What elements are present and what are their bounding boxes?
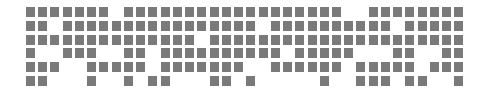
grid-cell [210, 48, 219, 58]
grid-cell [124, 21, 133, 31]
grid-cell [26, 35, 35, 45]
grid-cell [369, 35, 378, 45]
grid-cell [393, 7, 402, 17]
grid-cell [320, 35, 329, 45]
grid-cell [38, 76, 47, 86]
grid-cell [320, 62, 329, 72]
grid-cell [332, 48, 341, 58]
grid-cell [234, 35, 243, 45]
grid-cell [332, 35, 341, 45]
grid-cell [26, 76, 35, 86]
grid-cell [87, 48, 96, 58]
grid-cell [112, 62, 121, 72]
grid-cell [197, 48, 206, 58]
grid-cell [283, 62, 292, 72]
grid-cell [63, 35, 72, 45]
grid-cell [442, 48, 451, 58]
grid-cell [185, 48, 194, 58]
grid-cell [50, 35, 59, 45]
grid-cell [222, 76, 231, 86]
grid-cell [99, 7, 108, 17]
grid-cell [259, 35, 268, 45]
grid-cell [369, 7, 378, 17]
grid-cell [271, 62, 280, 72]
grid-cell [308, 7, 317, 17]
grid-cell [222, 35, 231, 45]
grid-cell [381, 7, 390, 17]
grid-cell [210, 76, 219, 86]
grid-cell [369, 21, 378, 31]
grid-cell [210, 7, 219, 17]
grid-cell [405, 7, 414, 17]
grid-cell [246, 48, 255, 58]
grid-cell [99, 35, 108, 45]
grid-cell [38, 21, 47, 31]
grid-cell [148, 35, 157, 45]
grid-cell [454, 76, 463, 86]
grid-cell [344, 48, 353, 58]
grid-cell [234, 7, 243, 17]
grid-cell [295, 21, 304, 31]
grid-cell [430, 35, 439, 45]
grid-cell [87, 21, 96, 31]
grid-cell [320, 7, 329, 17]
grid-cell [136, 21, 145, 31]
grid-cell [222, 21, 231, 31]
grid-cell [173, 48, 182, 58]
grid-cell [295, 7, 304, 17]
grid-cell [234, 21, 243, 31]
grid-cell [136, 48, 145, 58]
grid-cell [38, 7, 47, 17]
grid-cell [75, 35, 84, 45]
grid-cell [405, 35, 414, 45]
grid-cell [295, 35, 304, 45]
grid-cell [259, 7, 268, 17]
grid-cell [356, 21, 365, 31]
grid-cell [405, 62, 414, 72]
grid-cell [320, 21, 329, 31]
grid-cell [381, 35, 390, 45]
grid-cell [26, 48, 35, 58]
grid-cell [430, 62, 439, 72]
grid-cell [295, 48, 304, 58]
grid-cell [442, 21, 451, 31]
grid-cell [344, 21, 353, 31]
grid-cell [454, 7, 463, 17]
grid-cell [197, 62, 206, 72]
grid-cell [148, 7, 157, 17]
grid-cell [26, 7, 35, 17]
grid-cell [234, 48, 243, 58]
grid-cell [283, 35, 292, 45]
grid-cell [124, 62, 133, 72]
grid-cell [430, 7, 439, 17]
grid-cell [161, 62, 170, 72]
grid-cell [75, 7, 84, 17]
grid-cell [148, 21, 157, 31]
grid-cell [185, 35, 194, 45]
grid-cell [308, 35, 317, 45]
grid-cell [356, 62, 365, 72]
grid-cell [185, 7, 194, 17]
grid-cell [136, 35, 145, 45]
grid-cell [430, 21, 439, 31]
grid-cell [283, 21, 292, 31]
grid-cell [222, 48, 231, 58]
grid-cell [87, 76, 96, 86]
grid-cell [87, 7, 96, 17]
grid-cell [393, 35, 402, 45]
grid-cell [210, 62, 219, 72]
grid-cell [50, 7, 59, 17]
grid-cell [50, 62, 59, 72]
grid-cell [173, 35, 182, 45]
grid-cell [454, 35, 463, 45]
grid-cell [442, 7, 451, 17]
grid-cell [381, 21, 390, 31]
grid-cell [246, 7, 255, 17]
grid-cell [99, 21, 108, 31]
grid-cell [99, 62, 108, 72]
grid-cell [185, 21, 194, 31]
grid-cell [26, 21, 35, 31]
grid-cell [75, 21, 84, 31]
grid-cell [222, 62, 231, 72]
grid-cell [124, 7, 133, 17]
